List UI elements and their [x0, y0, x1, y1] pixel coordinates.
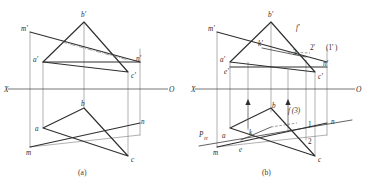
fig-b-label-e: e: [239, 146, 243, 154]
fig-b-projector-arrows: [245, 99, 290, 128]
fig-b-label-a-prime: a': [220, 56, 226, 64]
fig-b-label-n-prime: n': [323, 60, 329, 68]
fig-b-label-one: 1: [308, 121, 312, 129]
fig-b-label-three-prime: 3: [293, 49, 297, 57]
fig-b-label-b-prime: b': [268, 11, 274, 19]
fig-b-label-c-prime: c': [318, 73, 323, 81]
fig-b-label-c: c: [318, 156, 322, 164]
fig-b-front-intersection-kf: [262, 48, 306, 57]
fig-b-axis-x-label: X: [190, 85, 196, 94]
fig-b-label-f-prime: f': [296, 24, 300, 32]
fig-b-label-e-prime: e': [224, 68, 229, 76]
fig-b-label-one-prime-paren: (1' ): [326, 44, 338, 52]
fig-b-label-b: b: [272, 102, 276, 110]
fig-b-label-k-prime: k': [258, 40, 263, 48]
fig-b-top-triangle: [230, 108, 315, 156]
fig-b-label-m: m: [213, 149, 218, 157]
drawing-canvas: X O m' b' a' n' c' b a m n c (a): [0, 0, 375, 189]
fig-b-label-a: a: [222, 132, 226, 140]
figure-b: X O: [0, 0, 375, 189]
fig-b-axis-o-label: O: [356, 85, 362, 94]
fig-b-label-f-three: f (3): [288, 107, 301, 115]
fig-b-caption: (b): [262, 168, 271, 177]
fig-b-label-two-prime: 2': [310, 44, 315, 52]
fig-b-label-n: n: [331, 118, 335, 126]
fig-b-label-p-h-subscript: H: [203, 136, 208, 141]
fig-b-label-m-prime: m': [208, 25, 215, 33]
fig-b-label-two: 2: [308, 138, 312, 146]
